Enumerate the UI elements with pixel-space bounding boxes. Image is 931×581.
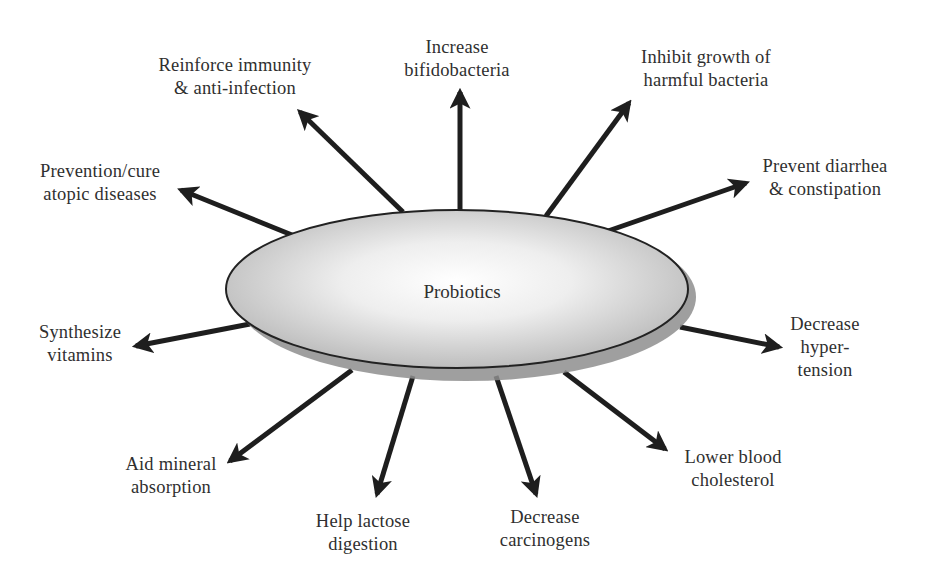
label-decrease-hypertension: Decrease hyper- tension xyxy=(790,313,859,382)
label-line: harmful bacteria xyxy=(641,69,771,92)
label-line: Prevent diarrhea xyxy=(763,155,888,178)
label-increase-bifidobacteria: Increase bifidobacteria xyxy=(404,36,510,82)
label-synthesize-vitamins: Synthesize vitamins xyxy=(39,321,121,367)
label-line: Reinforce immunity xyxy=(158,54,311,77)
label-line: Synthesize xyxy=(39,321,121,344)
label-reinforce-immunity: Reinforce immunity & anti-infection xyxy=(158,54,311,100)
label-line: Decrease xyxy=(790,313,859,336)
label-line: cholesterol xyxy=(684,469,781,492)
label-line: absorption xyxy=(125,476,216,499)
arrow-synthesize-vitamins xyxy=(136,324,250,346)
arrow-help-lactose-digestion xyxy=(377,376,413,494)
label-line: tension xyxy=(790,359,859,382)
label-decrease-carcinogens: Decrease carcinogens xyxy=(500,506,591,552)
label-line: bifidobacteria xyxy=(404,59,510,82)
probiotics-benefits-diagram: Probiotics Reinforce immunity & anti-inf… xyxy=(0,0,931,581)
label-prevent-diarrhea: Prevent diarrhea & constipation xyxy=(763,155,888,201)
probiotics-center-label: Probiotics xyxy=(423,281,500,303)
arrow-lower-cholesterol xyxy=(564,372,665,449)
arrow-decrease-hypertension xyxy=(680,327,779,347)
arrow-reinforce-immunity xyxy=(300,112,403,212)
arrow-decrease-carcinogens xyxy=(496,376,536,494)
label-line: & constipation xyxy=(763,178,888,201)
label-aid-mineral-absorption: Aid mineral absorption xyxy=(125,453,216,499)
label-line: atopic diseases xyxy=(40,183,160,206)
label-line: Prevention/cure xyxy=(40,160,160,183)
label-line: Aid mineral xyxy=(125,453,216,476)
label-line: Decrease xyxy=(500,506,591,529)
label-line: Help lactose xyxy=(316,510,410,533)
label-line: Increase xyxy=(404,36,510,59)
label-lower-cholesterol: Lower blood cholesterol xyxy=(684,446,781,492)
label-line: Inhibit growth of xyxy=(641,46,771,69)
label-line: Lower blood xyxy=(684,446,781,469)
label-line: digestion xyxy=(316,533,410,556)
arrow-prevention-atopic-diseases xyxy=(181,190,292,235)
arrow-prevent-diarrhea xyxy=(608,183,746,231)
label-line: hyper- xyxy=(790,336,859,359)
label-line: & anti-infection xyxy=(158,77,311,100)
arrow-aid-mineral-absorption xyxy=(230,370,352,461)
label-line: vitamins xyxy=(39,344,121,367)
label-help-lactose-digestion: Help lactose digestion xyxy=(316,510,410,556)
arrow-inhibit-harmful-bacteria xyxy=(546,103,629,216)
label-inhibit-harmful-bacteria: Inhibit growth of harmful bacteria xyxy=(641,46,771,92)
label-prevention-atopic-diseases: Prevention/cure atopic diseases xyxy=(40,160,160,206)
label-line: carcinogens xyxy=(500,529,591,552)
